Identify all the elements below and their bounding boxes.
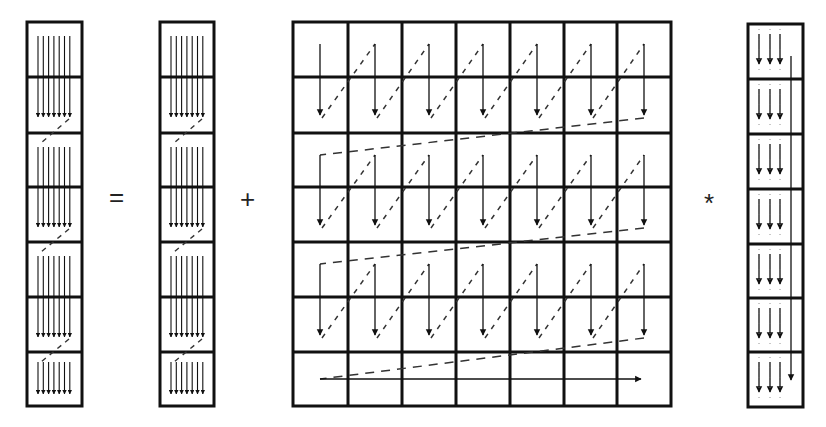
matrix-grid: [293, 22, 671, 406]
right-vector: [748, 24, 803, 407]
equals-sign: =: [109, 184, 124, 210]
left-vector: [27, 22, 82, 406]
middle-vector: [160, 22, 214, 406]
plus-sign: +: [240, 186, 255, 212]
times-sign: *: [704, 190, 714, 216]
diagram-canvas: [0, 0, 826, 427]
